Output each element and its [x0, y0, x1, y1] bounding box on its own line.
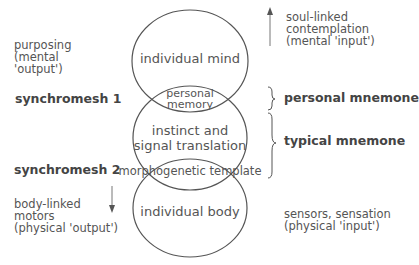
synchromesh-1-label: synchromesh 1: [15, 93, 121, 105]
personal-memory-label: personal memory: [166, 88, 214, 110]
arrow-up-icon: [267, 7, 273, 46]
morphogenetic-template-label: morphogenetic template: [119, 164, 262, 178]
soul-linked-label: soul-linked contemplation (mental 'input…: [286, 11, 375, 47]
instinct-label: instinct and signal translation: [134, 123, 247, 153]
instinct-line-1: instinct and: [134, 123, 247, 138]
purposing-line-3: 'output'): [14, 63, 71, 75]
individual-body-label: individual body: [140, 204, 239, 219]
individual-mind-label: individual mind: [140, 51, 240, 66]
personal-memory-line-2: memory: [166, 99, 214, 110]
brace-small-icon: [268, 87, 275, 110]
body-linked-line-3: (physical 'output'): [14, 222, 118, 234]
sensors-label: sensors, sensation (physical 'input'): [284, 208, 391, 232]
typical-mnemone-label: typical mnemone: [284, 135, 405, 147]
sensors-line-2: (physical 'input'): [284, 220, 391, 232]
brace-large-icon: [268, 113, 276, 178]
body-linked-label: body-linked motors (physical 'output'): [14, 198, 118, 234]
purposing-label: purposing (mental 'output'): [14, 39, 71, 75]
synchromesh-2-label: synchromesh 2: [14, 164, 120, 176]
personal-mnemone-label: personal mnemone: [284, 92, 419, 104]
instinct-line-2: signal translation: [134, 138, 247, 153]
soul-linked-line-3: (mental 'input'): [286, 35, 375, 47]
